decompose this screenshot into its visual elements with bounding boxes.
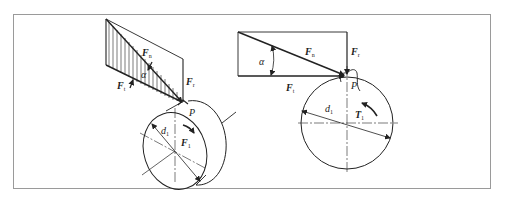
label-P-right: P bbox=[350, 80, 357, 91]
label-d1-left: d1 bbox=[161, 125, 169, 137]
label-Fn-right: Fn bbox=[304, 46, 315, 58]
label-T1-right: T1 bbox=[355, 109, 364, 121]
label-T1-left: F1 bbox=[180, 137, 191, 149]
label-P-left: P bbox=[188, 107, 195, 118]
label-Fn-left: Fn bbox=[141, 47, 152, 59]
label-Fr-left: Fr bbox=[185, 76, 195, 88]
right-diagram bbox=[238, 32, 398, 172]
label-alpha-right: α bbox=[259, 56, 265, 67]
figure-frame bbox=[14, 15, 491, 189]
label-d1-right: d1 bbox=[325, 103, 333, 115]
label-Fr-right: Fr bbox=[350, 46, 360, 58]
label-Ft-left: Ft bbox=[116, 80, 126, 92]
label-Ft-right: Ft bbox=[285, 82, 295, 94]
gear-force-diagram: Fn α Ft Fr P d1 F1 Fn Fr α Ft P bbox=[0, 0, 506, 201]
left-diagram bbox=[106, 19, 236, 198]
right-labels: Fn Fr α Ft P d1 T1 bbox=[259, 46, 364, 121]
label-alpha-left: α bbox=[141, 69, 147, 80]
